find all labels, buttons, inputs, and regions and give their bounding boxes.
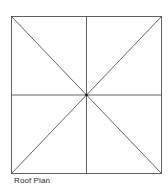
roof-plan-figure: Roof Plan <box>0 0 168 187</box>
figure-caption: Roof Plan <box>14 176 50 185</box>
roof-plan-drawing <box>0 0 168 187</box>
apex-point <box>85 94 88 97</box>
hip-line-bottom-right <box>87 95 162 174</box>
hip-line-bottom-left <box>12 95 87 174</box>
hip-line-top-right <box>87 17 162 96</box>
hip-line-top-left <box>12 17 87 96</box>
